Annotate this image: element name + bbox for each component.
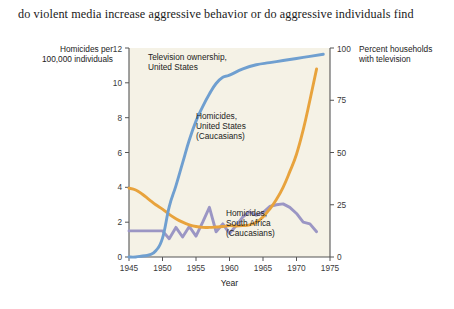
sa-homicides-label-line1: Homicides, — [226, 208, 267, 218]
x-tick-label-1955: 1955 — [187, 263, 206, 273]
left-tick-label-6: 6 — [117, 148, 122, 158]
right-axis-title-line2: with television — [358, 54, 411, 64]
left-tick-label-12: 12 — [113, 44, 123, 54]
right-axis-title-line1: Percent households — [359, 44, 432, 54]
right-tick-label-100: 100 — [337, 44, 351, 54]
right-axis-ticks — [330, 48, 334, 257]
us-homicides-label-line2: United States — [196, 121, 246, 131]
x-tick-label-1950: 1950 — [153, 263, 172, 273]
x-tick-label-1965: 1965 — [254, 263, 273, 273]
us-homicides-label-line1: Homicides, — [196, 111, 237, 121]
sa-homicides-label-line3: (Caucasians) — [226, 228, 275, 238]
us-homicides-label-line3: (Caucasians) — [196, 131, 245, 141]
x-tick-label-1960: 1960 — [220, 263, 239, 273]
left-tick-label-8: 8 — [117, 113, 122, 123]
tv-ownership-label-line2: United States — [148, 62, 198, 72]
right-tick-label-25: 25 — [337, 200, 347, 210]
left-axis-title-line1: Homicides per — [60, 44, 113, 54]
x-axis-ticks — [129, 257, 330, 261]
right-tick-label-50: 50 — [337, 148, 347, 158]
right-tick-label-75: 75 — [337, 95, 347, 105]
left-axis-ticks — [125, 48, 129, 257]
left-tick-label-2: 2 — [117, 217, 122, 227]
right-tick-label-0: 0 — [337, 252, 342, 262]
left-tick-label-4: 4 — [117, 182, 122, 192]
tv-ownership-label-line1: Television ownership, — [148, 52, 227, 62]
left-tick-label-0: 0 — [117, 252, 122, 262]
x-axis-title: Year — [221, 278, 239, 288]
page-caption-text: do violent media increase aggressive beh… — [18, 6, 438, 22]
x-tick-label-1975: 1975 — [321, 263, 340, 273]
left-tick-label-10: 10 — [113, 78, 123, 88]
sa-homicides-label-line2: South Africa — [226, 218, 271, 228]
x-tick-label-1945: 1945 — [120, 263, 139, 273]
left-axis-title-line2: 100,000 individuals — [42, 54, 113, 64]
chart-svg: 0 2 4 6 8 10 12 Homicides per 100,000 in… — [0, 36, 454, 309]
x-tick-label-1970: 1970 — [287, 263, 306, 273]
figure-chart: 0 2 4 6 8 10 12 Homicides per 100,000 in… — [0, 36, 454, 309]
